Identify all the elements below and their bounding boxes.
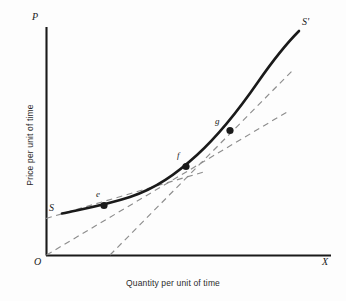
supply-curve-figure: P X O S S' e f g Quantity per unit of ti… [0,0,346,301]
data-point-g [226,127,233,134]
point-label-e: e [96,189,100,199]
curve-start-label: S [49,202,54,213]
point-label-g: g [215,116,220,126]
data-point-e [100,202,107,209]
x-axis-symbol: X [322,256,328,267]
y-axis-title: Price per unit of time [25,55,35,235]
plot-area [0,0,346,301]
x-axis-title: Quantity per unit of time [0,278,346,288]
point-label-f: f [177,150,180,160]
supply-curve [62,31,299,214]
y-axis-symbol: P [32,11,38,22]
origin-symbol: O [34,256,41,267]
tangent-ray-origin-f [47,112,288,255]
tangent-line-g [110,71,292,255]
curve-end-label: S' [302,16,309,27]
data-point-f [182,163,189,170]
